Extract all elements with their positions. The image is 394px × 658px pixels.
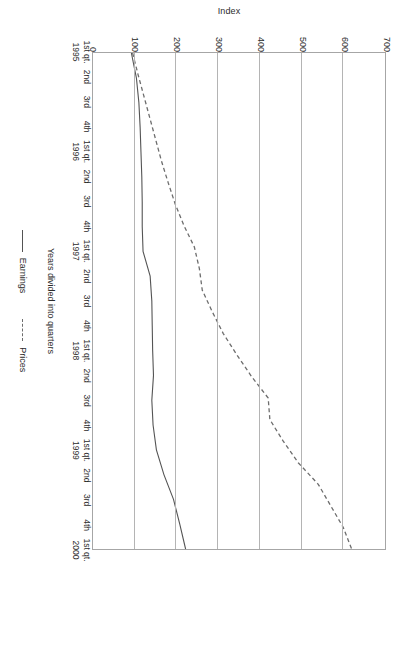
x-axis-title-label: Years divided into quarters — [46, 248, 56, 354]
y-tick-label: 300 — [214, 26, 223, 52]
legend-label: Prices — [18, 347, 28, 372]
x-tick-year: 1996 — [70, 124, 81, 180]
x-tick-year: 2000 — [70, 522, 81, 578]
gridline — [217, 53, 218, 549]
gridline — [259, 53, 260, 549]
rotated-chart-wrapper: Index 0100200300400500600700 1st qt.1995… — [0, 0, 394, 658]
gridline — [175, 53, 176, 549]
x-tick-year: 1997 — [70, 223, 81, 279]
series-line-prices — [133, 53, 352, 549]
gridline — [134, 53, 135, 549]
series-canvas — [93, 53, 385, 549]
y-tick-label: 600 — [340, 26, 349, 52]
x-axis-tick-labels: 1st qt.19952nd3rd4th1st qt.19962nd3rd4th… — [58, 52, 92, 550]
y-tick-label: 700 — [382, 26, 391, 52]
y-tick-label: 400 — [256, 26, 265, 52]
x-tick-year: 1998 — [70, 323, 81, 379]
legend-item: Earnings — [18, 230, 28, 294]
chart-legend: EarningsPrices — [18, 52, 28, 550]
y-tick-label: 200 — [172, 26, 181, 52]
y-tick-label: 500 — [298, 26, 307, 52]
gridline — [301, 53, 302, 549]
y-tick-label: 100 — [130, 26, 139, 52]
legend-dashed-line-icon — [23, 319, 24, 341]
x-tick-year: 1999 — [70, 422, 81, 478]
gridline — [342, 53, 343, 549]
y-axis-tick-labels: 0100200300400500600700 — [0, 0, 394, 52]
plot-area — [92, 52, 386, 550]
series-line-earnings — [131, 53, 185, 549]
legend-label: Earnings — [18, 258, 28, 294]
legend-solid-line-icon — [23, 230, 24, 252]
x-axis-title: Years divided into quarters — [46, 52, 56, 550]
x-tick-quarter: 1st qt. — [81, 522, 92, 578]
line-chart-figure: Index 0100200300400500600700 1st qt.1995… — [0, 0, 394, 658]
x-tick-label: 1st qt.2000 — [70, 522, 92, 578]
x-tick-year: 1995 — [70, 24, 81, 80]
legend-item: Prices — [18, 319, 28, 372]
